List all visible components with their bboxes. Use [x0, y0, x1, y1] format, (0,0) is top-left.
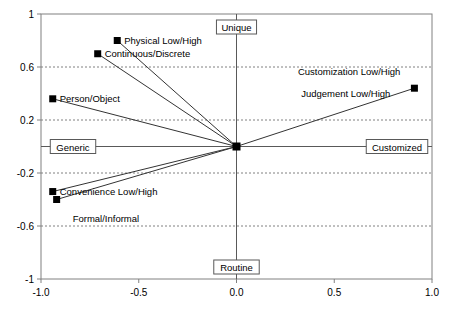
- y-tick-label: 1: [28, 9, 34, 20]
- axis-label-routine-text: Routine: [220, 262, 253, 273]
- origin-marker: [233, 143, 241, 151]
- x-tick-label: 0.5: [327, 287, 341, 298]
- data-point-label: Formal/Informal: [73, 213, 140, 224]
- axis-label-customized-text: Customized: [372, 142, 422, 153]
- axis-label-unique-text: Unique: [221, 22, 251, 33]
- y-tick-label: 0.2: [20, 115, 34, 126]
- data-point-marker: [411, 85, 418, 92]
- y-tick-label: -1: [25, 274, 34, 285]
- x-tick-label: -1.0: [32, 287, 50, 298]
- data-point-marker: [49, 95, 56, 102]
- y-tick-label: -0.2: [17, 168, 35, 179]
- data-point-marker: [114, 37, 121, 44]
- x-tick-label: 1.0: [425, 287, 439, 298]
- data-point-marker: [94, 50, 101, 57]
- data-point-label: Judgement Low/High: [301, 88, 390, 99]
- data-point-marker: [49, 188, 56, 195]
- perceptual-map-chart: 10.60.2-0.2-0.6-1-1.0-0.50.00.51.0Physic…: [0, 0, 449, 317]
- data-point-marker: [53, 196, 60, 203]
- y-tick-label: -0.6: [17, 221, 35, 232]
- x-tick-label: 0.0: [230, 287, 244, 298]
- y-tick-label: 0.6: [20, 62, 34, 73]
- data-point-label: Person/Object: [60, 93, 121, 104]
- data-point-label: Convenience Low/High: [60, 186, 158, 197]
- data-point-label: Customization Low/High: [298, 66, 400, 77]
- data-point-label: Physical Low/High: [124, 35, 202, 46]
- x-tick-label: -0.5: [130, 287, 148, 298]
- chart-canvas: 10.60.2-0.2-0.6-1-1.0-0.50.00.51.0Physic…: [0, 0, 449, 317]
- data-point-label: Continuous/Discrete: [105, 48, 191, 59]
- axis-label-generic-text: Generic: [56, 142, 90, 153]
